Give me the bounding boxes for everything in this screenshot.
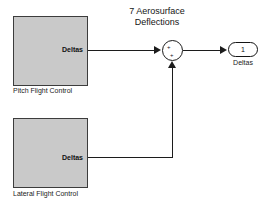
signal-line-sum-to-outport[interactable] (183, 50, 221, 51)
signal-line-lateral-vertical[interactable] (172, 68, 173, 157)
subsystem-block-pitch-flight-control[interactable]: Deltas (13, 16, 88, 86)
subsystem-block-lateral-flight-control[interactable]: Deltas (13, 118, 88, 188)
arrowhead-pitch-to-sum (154, 46, 161, 54)
pitch-block-caption: Pitch Flight Control (13, 87, 91, 95)
lateral-output-port-label: Deltas (62, 154, 83, 162)
outport-block[interactable]: 1 (228, 42, 258, 57)
signal-line-lateral-horizontal[interactable] (88, 157, 173, 158)
diagram-title-line-2: Deflections (103, 17, 211, 28)
pitch-output-port-label: Deltas (62, 46, 83, 54)
sum-sign-plus-2: + (170, 52, 174, 58)
diagram-title-line-1: 7 Aerosurface (103, 6, 211, 17)
arrowhead-lateral-to-sum (168, 61, 176, 68)
signal-line-pitch-to-sum[interactable] (88, 50, 155, 51)
sum-sign-plus-1: + (167, 44, 171, 50)
outport-number: 1 (229, 45, 257, 54)
diagram-title-annotation: 7 Aerosurface Deflections (103, 6, 211, 28)
lateral-block-caption: Lateral Flight Control (13, 190, 103, 198)
simulink-diagram-canvas: 7 Aerosurface Deflections Deltas Pitch F… (0, 0, 267, 212)
arrowhead-sum-to-outport (220, 46, 227, 54)
sum-block[interactable]: + + (162, 40, 183, 61)
outport-caption: Deltas (222, 59, 264, 67)
